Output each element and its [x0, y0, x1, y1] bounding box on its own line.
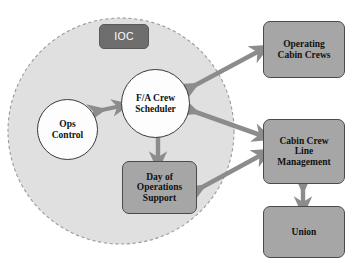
node-cabin-crew-line-management-label: Cabin Crew Line Management — [277, 136, 330, 168]
node-ioc-label: IOC — [114, 31, 134, 43]
node-fa-crew-scheduler-label: F/A Crew Scheduler — [135, 93, 176, 114]
node-ioc[interactable]: IOC — [99, 24, 149, 49]
node-fa-crew-scheduler[interactable]: F/A Crew Scheduler — [121, 69, 190, 138]
node-day-of-operations-support-label: Day of Operations Support — [137, 172, 182, 204]
node-ops-control[interactable]: Ops Control — [37, 99, 98, 160]
node-union[interactable]: Union — [263, 206, 345, 258]
node-cabin-crew-line-management[interactable]: Cabin Crew Line Management — [263, 119, 345, 184]
node-operating-cabin-crews[interactable]: Operating Cabin Crews — [263, 21, 345, 78]
diagram-canvas: IOC F/A Crew Scheduler Ops Control Day o… — [0, 0, 363, 270]
node-day-of-operations-support[interactable]: Day of Operations Support — [122, 161, 197, 214]
node-ops-control-label: Ops Control — [52, 119, 84, 140]
node-union-label: Union — [292, 227, 317, 238]
node-operating-cabin-crews-label: Operating Cabin Crews — [278, 39, 331, 60]
